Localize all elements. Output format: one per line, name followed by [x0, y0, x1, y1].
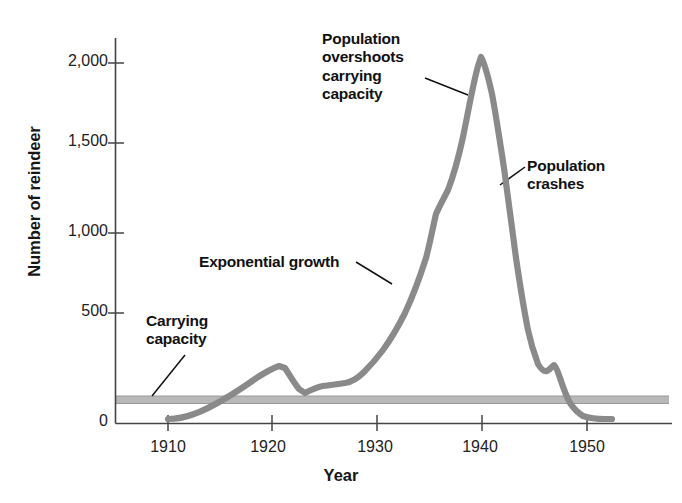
x-tick-label-1920: 1920	[228, 438, 308, 456]
reindeer-population-chart: Number of reindeer Year 2,000 1,500 1,00…	[0, 0, 682, 503]
y-axis-title: Number of reindeer	[25, 72, 44, 332]
annotation-population-overshoots: Population overshoots carrying capacity	[322, 30, 472, 103]
annotation-carrying-capacity: Carrying capacity	[146, 312, 256, 349]
carrying-capacity-band	[116, 396, 669, 404]
y-tick-label-500: 500	[20, 302, 108, 320]
y-tick-label-0: 0	[20, 412, 108, 430]
x-tick-label-1950: 1950	[547, 438, 627, 456]
x-tick-label-1930: 1930	[335, 438, 415, 456]
x-axis-title: Year	[0, 466, 682, 485]
annotation-population-crashes: Population crashes	[527, 157, 667, 194]
y-tick-label-2000: 2,000	[20, 52, 108, 70]
x-tick-label-1940: 1940	[440, 438, 520, 456]
y-tick-label-1500: 1,500	[20, 132, 108, 150]
annotation-exponential-growth: Exponential growth	[199, 253, 419, 271]
x-tick-label-1910: 1910	[128, 438, 208, 456]
population-curve	[168, 57, 612, 419]
y-tick-label-1000: 1,000	[20, 222, 108, 240]
